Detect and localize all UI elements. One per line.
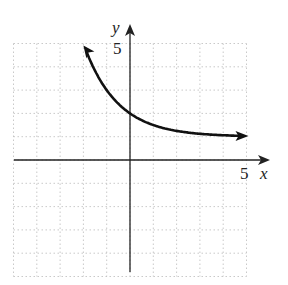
x-tick-label: 5	[240, 164, 249, 183]
axes	[14, 32, 262, 272]
graph: y 5 5 x	[0, 0, 288, 285]
plot-area: y 5 5 x	[0, 0, 288, 285]
y-tick-label: 5	[113, 39, 122, 58]
curve	[87, 53, 241, 136]
x-axis-label: x	[259, 164, 268, 183]
y-axis-label: y	[110, 18, 120, 37]
